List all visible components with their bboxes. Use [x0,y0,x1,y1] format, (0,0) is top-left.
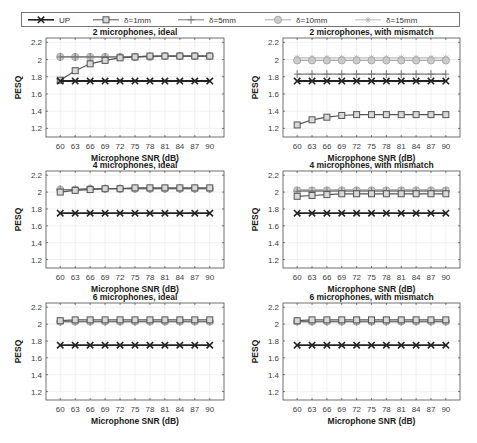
square-marker-icon [354,317,360,323]
square-marker-icon [369,191,375,197]
x-tick-label: 66 [86,142,95,151]
square-marker-icon [72,317,78,323]
subplot: 1.21.41.61.822.260636669727578818487902 … [13,27,224,163]
legend-label: δ=5mm [209,16,236,25]
x-tick-label: 84 [175,405,184,414]
circle-marker-icon [383,57,390,64]
square-marker-icon [132,317,138,323]
x-tick-label: 72 [116,405,125,414]
y-tick-label: 1.2 [31,124,43,133]
x-tick-label: 84 [412,405,421,414]
square-marker-icon [324,317,330,323]
x-axis-label: Microphone SNR (dB) [328,416,416,426]
y-tick-label: 1.4 [268,239,280,248]
square-marker-icon [428,112,434,118]
square-marker-icon [383,191,389,197]
x-tick-label: 87 [427,142,436,151]
legend-label: δ=15mm [386,16,418,25]
x-tick-label: 78 [145,273,154,282]
square-marker-icon [398,112,404,118]
circle-marker-icon [274,16,281,23]
x-tick-label: 75 [131,405,140,414]
circle-marker-icon [442,57,449,64]
x-tick-label: 66 [86,405,95,414]
square-marker-icon [309,317,315,323]
subplot-title: 4 microphones, ideal [93,160,178,170]
asterisk-marker-icon [365,17,371,23]
y-tick-label: 1.8 [268,205,280,214]
y-tick-label: 2 [275,188,280,197]
y-tick-label: 1.4 [268,371,280,380]
x-tick-label: 78 [145,405,154,414]
square-marker-icon [162,317,168,323]
x-tick-label: 72 [116,142,125,151]
square-marker-icon [309,117,315,123]
square-marker-icon [72,187,78,193]
square-marker-icon [132,54,138,60]
subplot: 1.21.41.61.822.260636669727578818487906 … [13,292,224,426]
x-tick-label: 90 [441,405,450,414]
y-tick-label: 1.8 [31,73,43,82]
x-tick-label: 78 [382,142,391,151]
x-tick-label: 69 [101,142,110,151]
y-tick-label: 2 [38,188,43,197]
subplot-title: 4 microphones, with mismatch [309,160,433,170]
x-tick-label: 63 [308,405,317,414]
y-tick-label: 1.2 [268,388,280,397]
square-marker-icon [428,191,434,197]
x-tick-label: 69 [337,405,346,414]
x-tick-label: 75 [131,142,140,151]
y-axis-label: PESQ [13,339,23,363]
square-marker-icon [207,53,213,59]
x-tick-label: 75 [367,142,376,151]
x-tick-label: 72 [116,273,125,282]
square-marker-icon [72,68,78,74]
square-marker-icon [294,193,300,199]
circle-marker-icon [294,57,301,64]
square-marker-icon [413,191,419,197]
legend-label: δ=1mm [124,16,151,25]
subplot-title: 2 microphones, ideal [93,27,178,37]
x-tick-label: 81 [160,273,169,282]
x-tick-label: 90 [205,142,214,151]
y-tick-label: 2 [275,320,280,329]
y-tick-label: 2.2 [31,38,43,47]
x-tick-label: 87 [427,405,436,414]
square-marker-icon [383,317,389,323]
x-tick-label: 81 [397,273,406,282]
square-marker-icon [102,186,108,192]
square-marker-icon [192,317,198,323]
y-tick-label: 1.6 [268,222,280,231]
y-tick-label: 1.8 [31,205,43,214]
circle-marker-icon [353,57,360,64]
x-tick-label: 60 [293,273,302,282]
x-tick-label: 90 [441,273,450,282]
square-marker-icon [413,317,419,323]
square-marker-icon [87,187,93,193]
y-axis-label: PESQ [13,75,23,99]
x-tick-label: 81 [160,405,169,414]
y-tick-label: 1.4 [268,107,280,116]
y-tick-label: 1.2 [31,388,43,397]
y-tick-label: 1.6 [31,222,43,231]
square-marker-icon [294,318,300,324]
x-tick-label: 72 [352,273,361,282]
x-tick-label: 75 [131,273,140,282]
y-tick-label: 1.8 [31,337,43,346]
subplot: 1.21.41.61.822.260636669727578818487902 … [250,27,460,163]
x-tick-label: 84 [175,142,184,151]
x-tick-label: 78 [382,273,391,282]
y-tick-label: 1.8 [268,337,280,346]
subplot: 1.21.41.61.822.260636669727578818487904 … [250,160,460,294]
square-marker-icon [339,112,345,118]
subplot-title: 6 microphones, with mismatch [309,292,433,302]
square-marker-icon [57,318,63,324]
square-marker-icon [354,191,360,197]
square-marker-icon [443,112,449,118]
y-tick-label: 1.2 [31,256,43,265]
subplot: 1.21.41.61.822.260636669727578818487904 … [13,160,224,294]
subplot: 1.21.41.61.822.260636669727578818487906 … [250,292,460,426]
x-tick-label: 69 [337,273,346,282]
subplot-title: 2 microphones, with mismatch [309,27,433,37]
square-marker-icon [132,185,138,191]
